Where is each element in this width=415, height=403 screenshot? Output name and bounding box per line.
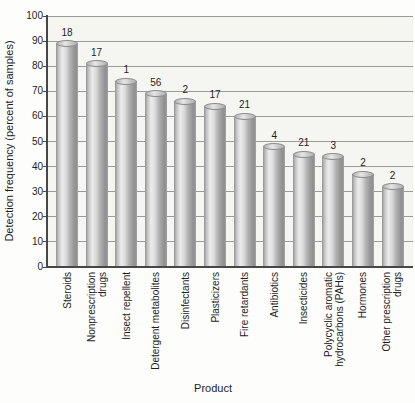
bar [234,116,256,267]
y-tick-label: 40 [0,161,43,173]
x-axis-title: Product [194,382,232,394]
x-category-label: Steroids [62,272,73,309]
y-tick-label: 30 [0,186,43,198]
bar-value-label: 2 [348,157,378,169]
bar-chart: Detection frequency (percent of samples)… [0,0,415,403]
bar-top-cap [174,98,196,105]
bar [115,81,137,267]
bar-top-cap [382,183,404,190]
bar-value-label: 2 [378,170,408,182]
x-category-label: Hormones [358,272,369,318]
bar-top-cap [352,171,374,178]
bar-value-label: 17 [200,89,230,101]
y-tick-label: 100 [0,10,43,22]
bar-top-cap [293,151,315,158]
y-tick-label: 70 [0,85,43,97]
bar-value-label: 1 [111,64,141,76]
bar [56,44,78,267]
bar [352,174,374,267]
bar [293,154,315,267]
x-category-label: Other prescription drugs [382,272,404,351]
gridline [48,41,413,42]
bar-top-cap [115,78,137,85]
gridline [48,16,413,17]
bar [174,101,196,267]
x-category-label: Insecticides [298,272,309,324]
bar-value-label: 21 [289,137,319,149]
x-axis-line [46,266,413,268]
bar [382,187,404,267]
y-tick-label: 50 [0,136,43,148]
x-category-label: Insect repellent [121,272,132,340]
bar [145,94,167,267]
y-tick-label: 10 [0,236,43,248]
y-tick-label: 80 [0,60,43,72]
bar-value-label: 4 [259,130,289,142]
bar [204,106,226,267]
bar [322,157,344,267]
x-category-label: Plasticizers [210,272,221,323]
x-category-label: Antibiotics [269,272,280,318]
bar-value-label: 17 [82,47,112,59]
bar [86,64,108,267]
x-category-label: Detergent metabolites [150,272,161,370]
bar-value-label: 2 [170,84,200,96]
bar-value-label: 18 [52,27,82,39]
bar-value-label: 56 [141,77,171,89]
bar [263,147,285,267]
y-tick-label: 90 [0,35,43,47]
x-category-label: Disinfectants [180,272,191,329]
y-tick-label: 0 [0,261,43,273]
y-axis-line [46,15,48,267]
bar-value-label: 21 [230,99,260,111]
bar-top-cap [204,103,226,110]
bar-top-cap [234,113,256,120]
x-category-label: Nonprescription drugs [86,272,108,342]
x-category-label: Polycyclic aromatic hydrocarbons (PAHs) [322,272,344,367]
y-tick-label: 20 [0,211,43,223]
y-tick-label: 60 [0,110,43,122]
bar-value-label: 3 [318,140,348,152]
x-category-label: Fire retardants [239,272,250,337]
